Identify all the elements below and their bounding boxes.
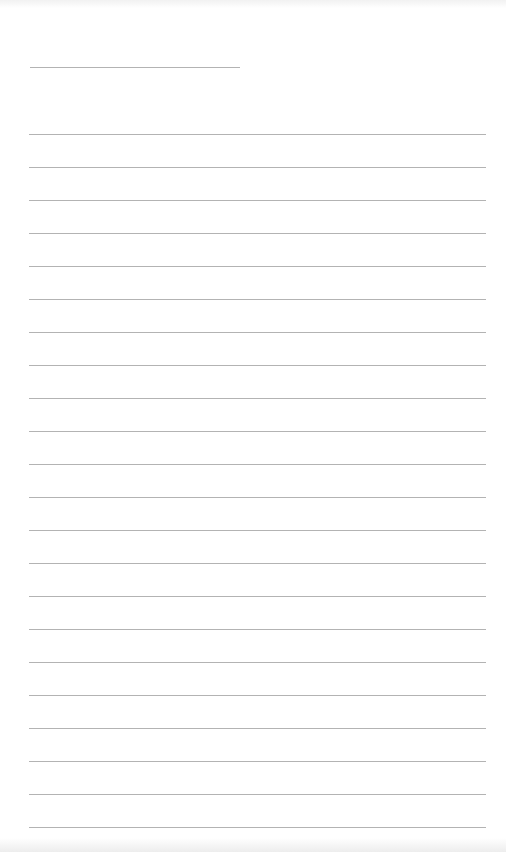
header-line [30, 67, 240, 68]
ruled-line [29, 662, 486, 663]
ruled-line [29, 629, 486, 630]
ruled-line [29, 200, 486, 201]
ruled-line [29, 761, 486, 762]
ruled-line [29, 365, 486, 366]
ruled-line [29, 398, 486, 399]
ruled-line [29, 596, 486, 597]
ruled-line [29, 695, 486, 696]
ruled-line [29, 563, 486, 564]
ruled-line [29, 266, 486, 267]
ruled-line [29, 530, 486, 531]
ruled-line [29, 332, 486, 333]
ruled-line [29, 497, 486, 498]
ruled-line [29, 431, 486, 432]
ruled-line [29, 167, 486, 168]
ruled-line [29, 794, 486, 795]
scan-bleed-top [0, 0, 506, 8]
ruled-line [29, 728, 486, 729]
ruled-line [29, 134, 486, 135]
ruled-line [29, 464, 486, 465]
ruled-line [29, 299, 486, 300]
lined-page [0, 0, 506, 852]
ruled-line [29, 827, 486, 828]
ruled-line [29, 233, 486, 234]
scan-bleed-bottom [0, 838, 506, 852]
